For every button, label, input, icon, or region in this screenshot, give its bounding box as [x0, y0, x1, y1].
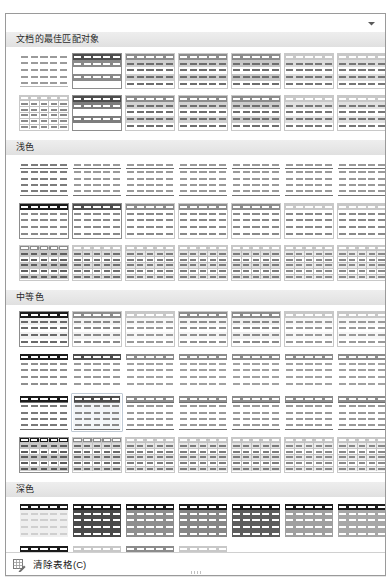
table-style-med-table-26[interactable] — [230, 435, 282, 474]
table-style-med-table-9[interactable] — [71, 351, 123, 390]
table-style-dark-table-11[interactable] — [177, 543, 229, 552]
table-style-med-table-17[interactable] — [124, 393, 176, 432]
table-style-med-table-16[interactable] — [71, 393, 123, 432]
popup-drop-shadow — [5, 576, 386, 577]
clear-table-menu-item[interactable]: 清除表格(C) — [10, 555, 92, 573]
table-style-list-table-12[interactable] — [230, 201, 282, 240]
table-style-list-table-8[interactable] — [18, 201, 70, 240]
table-style-med-table-27[interactable] — [283, 435, 335, 474]
table-style-med-table-18[interactable] — [177, 393, 229, 432]
table-style-grid-table-14[interactable] — [177, 243, 229, 282]
table-style-dark-table-9[interactable] — [71, 543, 123, 552]
table-style-grid-table-2[interactable] — [177, 51, 229, 90]
table-style-grid-table-15[interactable] — [230, 243, 282, 282]
table-style-grid-table-13[interactable] — [124, 243, 176, 282]
table-style-med-table-22[interactable] — [18, 435, 70, 474]
style-row — [6, 93, 385, 132]
table-style-grid-table-11[interactable] — [18, 243, 70, 282]
table-style-med-table-23[interactable] — [71, 435, 123, 474]
table-style-list-table-3[interactable] — [124, 159, 176, 198]
resize-grip-dots[interactable] — [191, 571, 201, 574]
table-style-thumbnail — [178, 203, 228, 239]
table-style-grid-table-lined[interactable] — [18, 93, 70, 132]
table-style-thumbnail — [337, 437, 385, 473]
table-style-thumbnail — [19, 437, 69, 473]
table-style-grid-table-7[interactable] — [177, 93, 229, 132]
table-style-med-table-13[interactable] — [283, 351, 335, 390]
table-style-grid-table-16[interactable] — [283, 243, 335, 282]
table-style-thumbnail — [231, 353, 281, 389]
table-style-list-table-4[interactable] — [177, 159, 229, 198]
table-style-thumbnail — [72, 203, 122, 239]
table-style-dark-table-3[interactable] — [124, 501, 176, 540]
table-style-dark-table-1[interactable] — [18, 501, 70, 540]
table-style-grid-table-10[interactable] — [336, 93, 385, 132]
table-style-list-table-11[interactable] — [177, 201, 229, 240]
table-style-list-table-1[interactable] — [18, 159, 70, 198]
table-style-thumbnail — [125, 161, 175, 197]
table-style-grid-table-12[interactable] — [71, 243, 123, 282]
style-row — [6, 543, 385, 552]
table-style-med-table-11[interactable] — [177, 351, 229, 390]
table-style-list-table-10[interactable] — [124, 201, 176, 240]
table-style-med-table-24[interactable] — [124, 435, 176, 474]
table-style-med-table-20[interactable] — [283, 393, 335, 432]
table-style-thumbnail — [125, 53, 175, 89]
table-style-med-table-12[interactable] — [230, 351, 282, 390]
table-style-thumbnail — [231, 503, 281, 539]
style-row — [6, 243, 385, 282]
table-style-med-table-3[interactable] — [124, 309, 176, 348]
table-style-med-table-21[interactable] — [336, 393, 385, 432]
table-style-thumbnail — [19, 503, 69, 539]
table-style-thumbnail — [178, 311, 228, 347]
table-style-grid-table-1[interactable] — [124, 51, 176, 90]
chevron-down-icon[interactable] — [367, 19, 376, 28]
table-style-med-table-19[interactable] — [230, 393, 282, 432]
table-style-list-table-2[interactable] — [71, 159, 123, 198]
table-style-list-table-5[interactable] — [230, 159, 282, 198]
table-style-grid-table-dark[interactable] — [71, 51, 123, 90]
table-style-grid-table-6[interactable] — [124, 93, 176, 132]
table-style-grid-table-5[interactable] — [336, 51, 385, 90]
table-style-dark-table-7[interactable] — [336, 501, 385, 540]
table-style-grid-table-3[interactable] — [230, 51, 282, 90]
table-style-list-table-14[interactable] — [336, 201, 385, 240]
table-style-thumbnail — [125, 395, 175, 431]
table-style-grid-table-9[interactable] — [283, 93, 335, 132]
table-style-med-table-14[interactable] — [336, 351, 385, 390]
table-style-dark-table-2[interactable] — [71, 501, 123, 540]
table-style-thumbnail — [125, 203, 175, 239]
table-style-dark-table-4[interactable] — [177, 501, 229, 540]
style-row — [6, 201, 385, 240]
table-style-dark-table-5[interactable] — [230, 501, 282, 540]
table-style-plain-table[interactable] — [18, 51, 70, 90]
table-style-med-table-10[interactable] — [124, 351, 176, 390]
gallery-scroll-body[interactable]: 文档的最佳匹配对象浅色中等色深色 — [6, 31, 385, 552]
table-style-list-table-6[interactable] — [283, 159, 335, 198]
table-style-med-table-2[interactable] — [71, 309, 123, 348]
table-style-med-table-4[interactable] — [177, 309, 229, 348]
table-style-med-table-8[interactable] — [18, 351, 70, 390]
table-style-grid-table-8[interactable] — [230, 93, 282, 132]
table-style-list-table-7[interactable] — [336, 159, 385, 198]
table-style-thumbnail — [337, 395, 385, 431]
table-style-med-table-1[interactable] — [18, 309, 70, 348]
table-style-med-table-5[interactable] — [230, 309, 282, 348]
table-style-dark-table-8[interactable] — [18, 543, 70, 552]
table-style-grid-table-4[interactable] — [283, 51, 335, 90]
table-style-dark-table-10[interactable] — [124, 543, 176, 552]
table-style-med-table-15[interactable] — [18, 393, 70, 432]
table-style-thumbnail — [19, 203, 69, 239]
table-style-thumbnail — [125, 95, 175, 131]
table-style-list-table-13[interactable] — [283, 201, 335, 240]
table-style-med-table-25[interactable] — [177, 435, 229, 474]
table-style-grid-table-dark-2[interactable] — [71, 93, 123, 132]
table-style-list-table-9[interactable] — [71, 201, 123, 240]
table-style-thumbnail — [19, 53, 69, 89]
table-style-med-table-6[interactable] — [283, 309, 335, 348]
table-style-dark-table-6[interactable] — [283, 501, 335, 540]
table-style-med-table-7[interactable] — [336, 309, 385, 348]
table-style-grid-table-17[interactable] — [336, 243, 385, 282]
style-row — [6, 351, 385, 390]
table-style-med-table-28[interactable] — [336, 435, 385, 474]
